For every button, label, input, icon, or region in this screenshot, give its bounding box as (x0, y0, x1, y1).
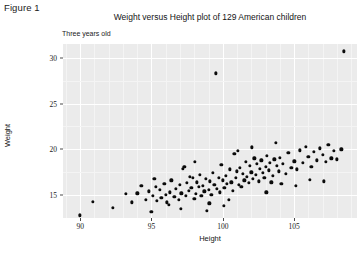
data-point (243, 179, 246, 182)
data-point (223, 186, 226, 189)
data-point (315, 159, 318, 162)
data-point (153, 177, 156, 180)
chart-title: Weight versus Height plot of 129 America… (63, 12, 357, 22)
gridline-minor-vertical (351, 44, 352, 218)
data-point (257, 180, 260, 183)
x-tick-mark (294, 218, 295, 221)
figure-label: Figure 1 (4, 2, 40, 13)
gridline-minor-vertical (237, 44, 238, 218)
gridline-minor-horizontal (63, 81, 357, 82)
data-point (304, 145, 307, 148)
data-point (130, 201, 133, 204)
data-point (253, 157, 256, 160)
data-point (231, 189, 234, 192)
data-point (167, 204, 170, 207)
data-point (254, 173, 257, 176)
data-point (154, 185, 157, 188)
data-point (335, 158, 338, 161)
x-tick-mark (151, 218, 152, 221)
data-point (268, 161, 271, 164)
data-point (327, 143, 330, 146)
x-tick-mark (223, 218, 224, 221)
chart-subtitle: Three years old (62, 30, 111, 37)
data-point (187, 189, 190, 192)
gridline-minor-vertical (280, 44, 281, 218)
data-point (275, 164, 278, 167)
y-tick-mark (60, 149, 63, 150)
data-point (224, 174, 227, 177)
data-point (271, 174, 274, 177)
data-point (255, 162, 258, 165)
data-point (330, 157, 333, 160)
data-point (261, 171, 264, 174)
data-point (333, 149, 336, 152)
data-point (233, 152, 236, 155)
y-tick-label: 25 (50, 99, 58, 108)
y-tick-mark (60, 103, 63, 104)
data-point (78, 214, 81, 217)
data-point (260, 159, 263, 162)
data-point (293, 160, 296, 163)
data-point (204, 177, 207, 180)
data-point (250, 171, 253, 174)
y-axis-ticks: 15202530 (38, 44, 63, 218)
data-point (217, 176, 220, 179)
data-point (258, 167, 261, 170)
data-point (273, 158, 276, 161)
data-point (313, 150, 316, 153)
y-tick-label: 20 (50, 145, 58, 154)
data-point (307, 155, 310, 158)
data-point (147, 190, 150, 193)
data-point (140, 184, 143, 187)
x-tick-mark (80, 218, 81, 221)
data-point (270, 181, 273, 184)
data-point (274, 141, 277, 144)
data-point (342, 50, 345, 53)
data-point (208, 202, 211, 205)
data-point (230, 181, 233, 184)
gridline-minor-vertical (209, 44, 210, 218)
data-point (240, 185, 243, 188)
gridline-major-vertical (294, 44, 295, 218)
data-point (310, 165, 313, 168)
data-point (265, 191, 268, 194)
gridline-minor-vertical (308, 44, 309, 218)
gridline-major-horizontal (63, 104, 357, 105)
data-point (290, 166, 293, 169)
x-tick-label: 100 (217, 222, 228, 231)
gridline-minor-horizontal (63, 172, 357, 173)
data-point (178, 183, 181, 186)
data-point (308, 178, 311, 181)
gridline-minor-vertical (166, 44, 167, 218)
data-point (218, 191, 221, 194)
data-point (225, 182, 228, 185)
data-point (207, 188, 210, 191)
data-point (195, 181, 198, 184)
data-point (203, 190, 206, 193)
y-tick-label: 30 (50, 53, 58, 62)
data-point (228, 168, 231, 171)
data-point (193, 160, 196, 163)
data-point (111, 206, 114, 209)
x-axis-title: Height (63, 234, 357, 243)
gridline-minor-vertical (94, 44, 95, 218)
data-point (265, 154, 268, 157)
data-point (238, 166, 241, 169)
data-point (284, 172, 287, 175)
data-point (186, 182, 189, 185)
x-tick-label: 95 (148, 222, 156, 231)
data-point (151, 194, 154, 197)
data-point (198, 173, 201, 176)
data-point (214, 72, 217, 75)
gridline-minor-vertical (66, 44, 67, 218)
plot-panel (63, 44, 357, 218)
x-tick-label: 90 (76, 222, 84, 231)
data-point (193, 197, 196, 200)
data-point (324, 160, 327, 163)
data-point (323, 180, 326, 183)
data-point (200, 194, 203, 197)
data-point (280, 182, 283, 185)
data-point (160, 196, 163, 199)
data-point (173, 195, 176, 198)
y-axis-title: Weight (3, 124, 12, 147)
